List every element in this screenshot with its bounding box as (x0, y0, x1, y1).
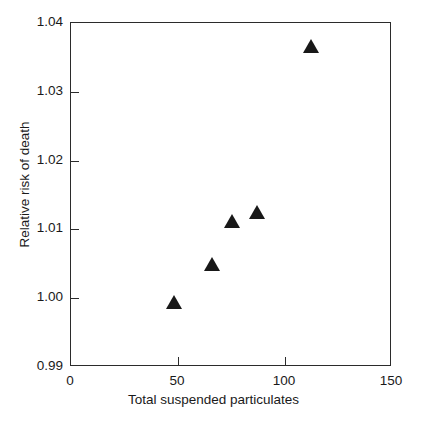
scatter-chart-figure: 0.991.001.011.021.031.04 050100150 Relat… (0, 0, 427, 423)
y-tick-label: 1.04 (3, 15, 63, 29)
triangle-up-icon (249, 205, 265, 219)
y-axis-title: Relative risk of death (17, 75, 32, 295)
y-tick-label: 1.03 (3, 84, 63, 98)
triangle-up-icon (303, 39, 319, 53)
y-axis-tick (71, 92, 79, 93)
triangle-up-icon (166, 295, 182, 309)
x-tick-label: 150 (361, 374, 421, 388)
plot-frame (70, 22, 391, 366)
x-axis-title: Total suspended particulates (0, 392, 427, 407)
y-axis-tick (71, 229, 79, 230)
triangle-up-icon (204, 257, 220, 271)
x-tick-label: 0 (40, 374, 100, 388)
x-axis-tick (285, 357, 286, 365)
y-tick-label: 0.99 (3, 359, 63, 373)
plot-area (71, 23, 390, 365)
x-tick-label: 50 (147, 374, 207, 388)
y-tick-label: 1.00 (3, 290, 63, 304)
y-axis-tick (71, 298, 79, 299)
y-axis-tick (71, 161, 79, 162)
x-axis-tick (178, 357, 179, 365)
y-tick-label: 1.01 (3, 221, 63, 235)
triangle-up-icon (224, 214, 240, 228)
x-tick-label: 100 (254, 374, 314, 388)
y-tick-label: 1.02 (3, 153, 63, 167)
